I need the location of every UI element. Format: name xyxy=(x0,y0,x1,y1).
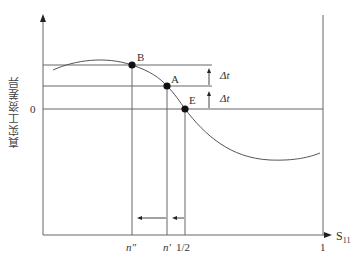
x-axis-arrow-icon xyxy=(324,232,332,238)
tick-label-n-prime: n′ xyxy=(163,241,172,253)
point-b xyxy=(128,61,135,68)
y-axis-label: 真实工资差异 xyxy=(8,76,24,148)
point-label-a: A xyxy=(171,73,179,85)
delta-t-label-upper: Δt xyxy=(219,69,230,81)
x-axis xyxy=(43,232,332,238)
up-arrow-icon xyxy=(207,91,211,96)
point-e xyxy=(181,105,188,112)
delta-t-label-lower: Δt xyxy=(219,92,230,104)
y-axis-arrow-icon xyxy=(40,14,46,22)
point-label-e: E xyxy=(189,94,196,106)
left-arrow-icon xyxy=(137,216,142,220)
left-arrow-icon xyxy=(172,216,177,220)
point-label-b: B xyxy=(137,51,144,63)
tick-label-one: 1 xyxy=(320,241,326,253)
y-zero-label: 0 xyxy=(30,103,36,115)
shift-arrow-left-short xyxy=(172,216,184,220)
real-wage-difference-diagram: B A E Δt Δt 0 n″ n′ 1/2 1 S11 xyxy=(0,0,362,261)
point-a xyxy=(163,82,170,89)
x-axis-label-subscript: 11 xyxy=(343,236,351,245)
up-arrow-icon xyxy=(207,68,211,73)
delta-t-arrow-lower xyxy=(207,91,211,108)
tick-label-half: 1/2 xyxy=(176,241,190,253)
x-axis-label: S11 xyxy=(336,229,350,245)
x-axis-label-main: S xyxy=(336,229,343,243)
shift-arrow-left-long xyxy=(137,216,166,220)
tick-label-n-double-prime: n″ xyxy=(126,241,137,253)
y-axis xyxy=(40,14,46,235)
delta-t-arrow-upper xyxy=(207,68,211,85)
